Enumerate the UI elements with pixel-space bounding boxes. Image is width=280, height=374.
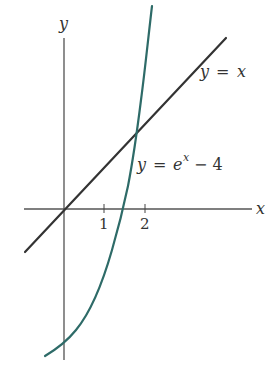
tick-label-2: 2 (140, 215, 150, 233)
svg-text:x: x (237, 62, 246, 81)
y-axis-label: y (58, 14, 69, 33)
svg-text:=: = (216, 62, 229, 81)
line-label: y = x (199, 62, 246, 81)
svg-text:e: e (173, 155, 182, 174)
svg-text:=: = (153, 155, 166, 174)
svg-text:− 4: − 4 (194, 155, 223, 174)
curve-label: y = e x − 4 (136, 151, 223, 174)
svg-text:y: y (136, 155, 147, 174)
x-axis-label: x (256, 199, 265, 218)
curve-exp-minus-4 (45, 6, 152, 356)
tick-label-1: 1 (99, 215, 109, 233)
svg-text:x: x (183, 151, 190, 164)
svg-text:y: y (199, 62, 210, 81)
line-y-equals-x (25, 38, 226, 252)
graph-canvas: y x 1 2 y = x y = e x − 4 (0, 0, 280, 374)
